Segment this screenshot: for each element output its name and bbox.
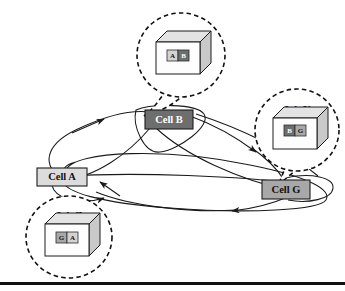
job-y-chip-1-text: G (298, 127, 304, 135)
cell-g-label: Cell G (272, 184, 301, 195)
figure-canvas: Job X A B Job Y (0, 0, 345, 291)
job-z-chip-1-text: A (70, 234, 75, 242)
job-y-chip-0-text: B (287, 127, 292, 135)
job-y-chip-1: G (295, 125, 306, 136)
cell-a-node[interactable]: Cell A (37, 168, 87, 186)
job-x-cube: A B (156, 31, 211, 74)
bottom-divider-rule (0, 282, 345, 285)
cell-a-label: Cell A (48, 171, 76, 182)
job-z-chip-1: A (67, 232, 78, 243)
cell-b-label: Cell B (155, 114, 183, 125)
job-z-group[interactable]: Job Z G A (26, 196, 112, 278)
routing-diagram: Job X A B Job Y (0, 0, 345, 291)
job-x-group[interactable]: Job X A B (137, 13, 225, 116)
job-x-chip-0: A (167, 50, 178, 61)
cell-b-node[interactable]: Cell B (145, 110, 193, 129)
job-z-chip-0: G (56, 232, 67, 243)
job-y-chip-0: B (284, 125, 295, 136)
job-y-group[interactable]: Job Y B G (255, 89, 339, 186)
job-y-cube: B G (273, 107, 328, 149)
job-z-cube: G A (45, 213, 100, 256)
edge-b-to-g (190, 116, 256, 152)
job-x-chip-0-text: A (170, 52, 175, 60)
edge-a-to-b-arrow (72, 119, 104, 133)
edge-g-to-a-tail (96, 192, 236, 211)
job-z-chip-0-text: G (59, 234, 65, 242)
job-x-chip-1-text: B (181, 52, 186, 60)
job-x-chip-1: B (178, 50, 189, 61)
edge-into-cell-a-lower (100, 182, 120, 196)
cell-g-node[interactable]: Cell G (262, 180, 310, 199)
